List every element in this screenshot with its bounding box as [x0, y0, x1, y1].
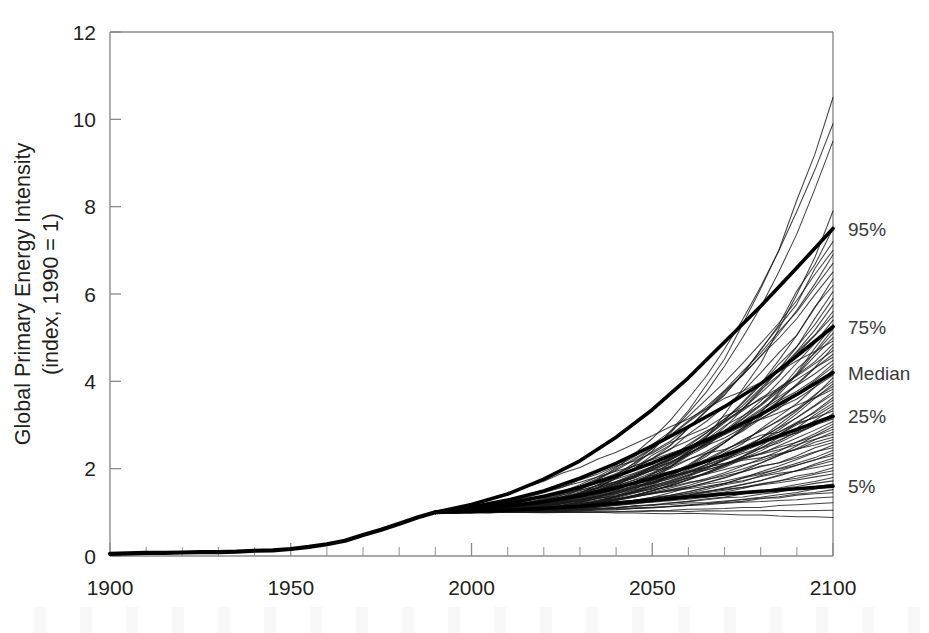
- y-tick-label: 2: [84, 457, 96, 480]
- y-tick-label: 10: [73, 108, 96, 131]
- chart-background: [0, 0, 929, 633]
- percentile-label-median: Median: [848, 363, 910, 384]
- percentile-label-75pct: 75%: [848, 317, 886, 338]
- x-tick-label: 2000: [448, 576, 495, 599]
- x-tick-label: 1950: [267, 576, 314, 599]
- chart-figure: Global Primary Energy Intensity (index, …: [0, 0, 929, 633]
- percentile-label-5pct: 5%: [848, 476, 876, 497]
- energy-intensity-line-chart: Global Primary Energy Intensity (index, …: [0, 0, 929, 633]
- x-tick-label: 1900: [87, 576, 134, 599]
- y-tick-label: 4: [84, 370, 96, 393]
- y-tick-label: 0: [84, 545, 96, 568]
- y-tick-label: 6: [84, 283, 96, 306]
- y-tick-label: 12: [73, 21, 96, 44]
- x-tick-label: 2100: [810, 576, 857, 599]
- y-axis-title-line1: Global Primary Energy Intensity: [11, 143, 35, 446]
- x-tick-label: 2050: [629, 576, 676, 599]
- percentile-label-25pct: 25%: [848, 406, 886, 427]
- percentile-label-95pct: 95%: [848, 219, 886, 240]
- y-tick-label: 8: [84, 195, 96, 218]
- y-axis-title-line2: (index, 1990 = 1): [39, 213, 63, 375]
